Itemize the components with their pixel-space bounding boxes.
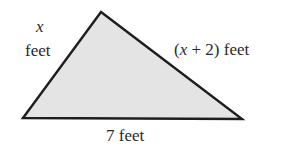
triangle-figure <box>0 0 297 147</box>
triangle-shape <box>23 12 242 119</box>
right-side-label: (x + 2) feet <box>174 41 249 58</box>
left-side-variable: x <box>36 18 44 35</box>
right-side-rest: + 2) feet <box>187 40 249 59</box>
bottom-side-label: 7 feet <box>106 127 144 144</box>
left-side-unit: feet <box>25 42 50 59</box>
